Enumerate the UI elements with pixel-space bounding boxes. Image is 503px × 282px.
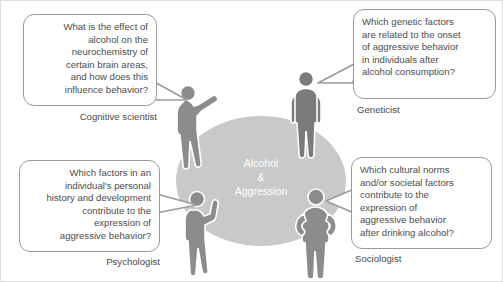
bubble-line: of aggressive behavior <box>362 41 487 54</box>
diagram-canvas: Alcohol & Aggression What is the effect … <box>0 0 503 282</box>
speech-bubble-geneticist[interactable]: Which genetic factors are related to the… <box>353 9 496 99</box>
bubble-line: alcohol on the <box>32 34 148 47</box>
bubble-line: and how does this <box>32 71 148 84</box>
role-label-cognitive-scientist: Cognitive scientist <box>23 111 157 122</box>
tail-sociologist <box>326 189 354 213</box>
bubble-line: and/or societal factors <box>360 177 483 190</box>
bubble-line: certain brain areas, <box>32 59 148 72</box>
role-label-geneticist: Geneticist <box>357 104 400 115</box>
bubble-line: expression of <box>28 217 151 230</box>
bubble-line: history and development <box>28 192 151 205</box>
speech-bubble-sociologist[interactable]: Which cultural norms and/or societal fac… <box>351 157 492 249</box>
bubble-line: in individuals after <box>362 54 487 67</box>
bubble-line: after drinking alcohol? <box>360 227 483 240</box>
bubble-line: aggressive behavior? <box>28 230 151 243</box>
bubble-line: neurochemistry of <box>32 46 148 59</box>
bubble-line: influence behavior? <box>32 84 148 97</box>
bubble-line: individual's personal <box>28 180 151 193</box>
role-label-psychologist: Psychologist <box>19 256 160 267</box>
speech-bubble-psychologist[interactable]: Which factors in an individual's persona… <box>19 160 160 252</box>
bubble-line: are related to the onset <box>362 29 487 42</box>
bubble-line: contribute to the <box>360 189 483 202</box>
bubble-line: aggressive behavior <box>360 214 483 227</box>
tail-geneticist <box>318 63 356 83</box>
bubble-line: What is the effect of <box>32 21 148 34</box>
speech-bubble-cognitive-scientist[interactable]: What is the effect of alcohol on the neu… <box>23 14 157 106</box>
bubble-line: expression of <box>360 202 483 215</box>
bubble-line: alcohol consumption? <box>362 66 487 79</box>
role-label-sociologist: Sociologist <box>355 253 401 264</box>
alcohol-aggression-diagram: Alcohol & Aggression What is the effect … <box>1 1 503 282</box>
bubble-line: Which genetic factors <box>362 16 487 29</box>
bubble-line: Which cultural norms <box>360 164 483 177</box>
bubble-line: contribute to the <box>28 205 151 218</box>
bubble-line: Which factors in an <box>28 167 151 180</box>
